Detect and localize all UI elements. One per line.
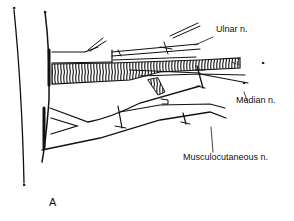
anatomical-diagram: Ulnar n. Median n. Musculocutaneous n. A: [0, 0, 294, 221]
outer-contour: [14, 10, 24, 183]
label-median-nerve: Median n.: [236, 96, 276, 105]
panel-label: A: [49, 197, 56, 208]
nerve-drawing: [0, 0, 294, 221]
label-musculocutaneous-nerve: Musculocutaneous n.: [183, 153, 268, 162]
label-ulnar-nerve: Ulnar n.: [216, 25, 248, 34]
